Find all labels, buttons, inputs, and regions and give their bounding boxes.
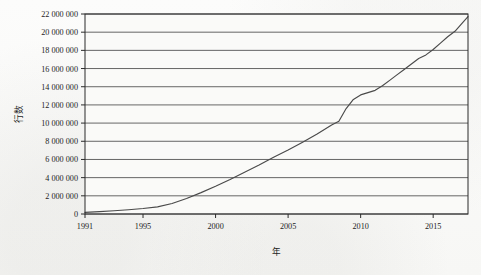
x-tick-label: 2000 (207, 222, 223, 231)
y-tick-label: 10 000 000 (41, 119, 78, 128)
y-axis-ticks: 02 000 0004 000 0006 000 0008 000 00010 … (41, 10, 85, 219)
y-tick-label: 22 000 000 (41, 10, 78, 19)
x-tick-label: 1991 (77, 222, 93, 231)
y-tick-label: 16 000 000 (41, 65, 78, 74)
y-tick-label: 20 000 000 (41, 28, 78, 37)
y-tick-label: 6 000 000 (45, 155, 78, 164)
y-tick-label: 14 000 000 (41, 83, 78, 92)
y-tick-label: 2 000 000 (45, 192, 78, 201)
x-tick-label: 2005 (280, 222, 296, 231)
y-tick-label: 4 000 000 (45, 174, 78, 183)
line-chart-figure: 02 000 0004 000 0006 000 0008 000 00010 … (0, 0, 481, 275)
y-tick-label: 0 (74, 210, 78, 219)
y-axis-title: 行数 (13, 105, 24, 123)
x-tick-label: 2010 (352, 222, 368, 231)
x-tick-label: 1995 (135, 222, 151, 231)
x-axis-ticks: 199119952000200520102015 (77, 214, 442, 231)
y-tick-label: 18 000 000 (41, 46, 78, 55)
plot-area-background (85, 14, 468, 214)
x-axis-title: 年 (272, 246, 281, 257)
y-tick-label: 12 000 000 (41, 101, 78, 110)
y-tick-label: 8 000 000 (45, 137, 78, 146)
x-tick-label: 2015 (425, 222, 441, 231)
chart-svg: 02 000 0004 000 0006 000 0008 000 00010 … (0, 0, 481, 275)
